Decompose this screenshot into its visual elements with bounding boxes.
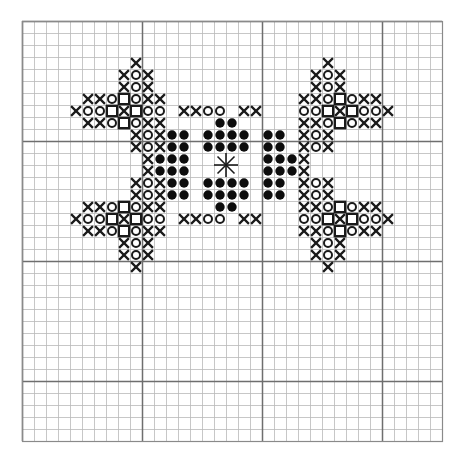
filled-circle-symbol <box>275 190 284 199</box>
filled-circle-symbol <box>167 178 176 187</box>
filled-circle-symbol <box>263 178 272 187</box>
filled-circle-symbol <box>239 178 248 187</box>
filled-circle-symbol <box>203 130 212 139</box>
filled-circle-symbol <box>263 166 272 175</box>
filled-circle-symbol <box>227 130 236 139</box>
filled-circle-symbol <box>167 190 176 199</box>
filled-circle-symbol <box>167 166 176 175</box>
filled-circle-symbol <box>263 142 272 151</box>
filled-circle-symbol <box>227 118 236 127</box>
filled-circle-symbol <box>179 190 188 199</box>
filled-circle-symbol <box>275 154 284 163</box>
filled-circle-symbol <box>239 190 248 199</box>
pattern-chart <box>0 0 457 467</box>
filled-circle-symbol <box>215 178 224 187</box>
filled-circle-symbol <box>167 154 176 163</box>
filled-circle-symbol <box>155 166 164 175</box>
filled-circle-symbol <box>179 142 188 151</box>
filled-circle-symbol <box>179 154 188 163</box>
filled-circle-symbol <box>287 154 296 163</box>
filled-circle-symbol <box>203 190 212 199</box>
filled-circle-symbol <box>227 178 236 187</box>
chart-canvas <box>0 0 457 467</box>
filled-circle-symbol <box>203 142 212 151</box>
filled-circle-symbol <box>203 178 212 187</box>
filled-circle-symbol <box>179 130 188 139</box>
center-star-symbol <box>214 153 238 177</box>
chart-background <box>0 0 457 467</box>
filled-circle-symbol <box>179 166 188 175</box>
filled-circle-symbol <box>167 142 176 151</box>
filled-circle-symbol <box>227 190 236 199</box>
filled-circle-symbol <box>215 142 224 151</box>
filled-circle-symbol <box>263 190 272 199</box>
filled-circle-symbol <box>215 202 224 211</box>
filled-circle-symbol <box>167 130 176 139</box>
filled-circle-symbol <box>239 142 248 151</box>
filled-circle-symbol <box>263 154 272 163</box>
filled-circle-symbol <box>227 202 236 211</box>
filled-circle-symbol <box>275 130 284 139</box>
filled-circle-symbol <box>287 166 296 175</box>
filled-circle-symbol <box>215 190 224 199</box>
cross-stitch-pattern-page <box>0 0 457 467</box>
filled-circle-symbol <box>275 166 284 175</box>
filled-circle-symbol <box>275 178 284 187</box>
filled-circle-symbol <box>215 118 224 127</box>
filled-circle-symbol <box>227 142 236 151</box>
filled-circle-symbol <box>239 130 248 139</box>
filled-circle-symbol <box>263 130 272 139</box>
filled-circle-symbol <box>155 154 164 163</box>
filled-circle-symbol <box>215 130 224 139</box>
filled-circle-symbol <box>179 178 188 187</box>
filled-circle-symbol <box>275 142 284 151</box>
